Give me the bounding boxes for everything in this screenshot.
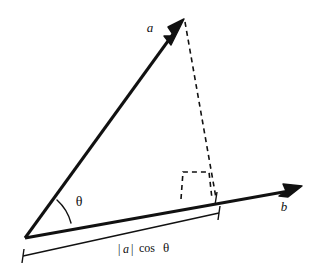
abs-bar-open: | <box>118 242 120 256</box>
vector-projection-diagram: a b θ | a | cos θ <box>0 0 318 277</box>
angle-theta-label: θ <box>76 194 83 209</box>
cos-theta-symbol: θ <box>163 240 169 255</box>
diagram-canvas: a b θ | a | cos θ <box>0 0 318 277</box>
magnitude-a-symbol: a <box>123 242 129 256</box>
vector-b-label: b <box>281 199 288 214</box>
abs-bar-close: | <box>131 242 133 256</box>
cos-function-name: cos <box>139 241 155 255</box>
vector-a-label: a <box>147 20 154 35</box>
